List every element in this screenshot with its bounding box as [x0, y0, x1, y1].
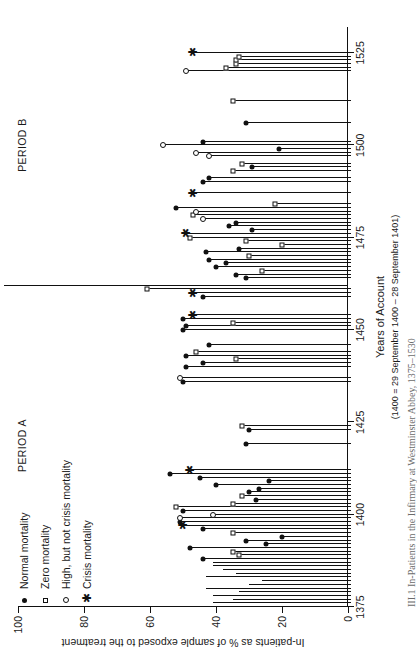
filled-circle-marker — [200, 527, 205, 532]
year-minor-tick — [348, 59, 351, 60]
year-minor-tick — [348, 244, 351, 245]
plot-area: 020406080100 137514001425145014751500152… — [18, 27, 348, 607]
bar — [203, 558, 348, 559]
year-minor-tick — [348, 491, 351, 492]
bar — [203, 528, 348, 529]
bar — [170, 473, 348, 474]
year-minor-tick — [348, 166, 351, 167]
bar — [206, 251, 348, 252]
year-minor-tick — [348, 362, 351, 363]
bar — [259, 488, 348, 489]
figure-caption: III.1 In-Patients in the Infirmary at We… — [406, 338, 417, 607]
year-minor-tick — [348, 521, 351, 522]
filled-circle-marker — [247, 490, 252, 495]
year-tick-label: 1450 — [354, 318, 366, 341]
value-tick-label: 100 — [12, 616, 24, 634]
bar — [233, 551, 349, 552]
open-square-marker — [230, 98, 235, 103]
open-square-marker — [230, 531, 235, 536]
filled-circle-marker — [204, 250, 209, 255]
open-square-marker — [230, 169, 235, 174]
bar — [249, 584, 348, 585]
filled-circle-marker — [237, 246, 242, 251]
year-minor-tick — [348, 248, 351, 249]
bar — [209, 177, 348, 178]
bar — [147, 288, 348, 289]
bar — [269, 480, 348, 481]
bar — [262, 270, 348, 271]
open-square-marker — [240, 494, 245, 499]
filled-circle-marker — [187, 545, 192, 550]
year-minor-tick — [348, 67, 351, 68]
open-circle-marker — [177, 375, 183, 381]
bar — [206, 588, 348, 589]
year-minor-tick — [348, 543, 351, 544]
year-minor-tick — [348, 222, 351, 223]
filled-circle-marker — [233, 272, 238, 277]
year-minor-tick — [348, 355, 351, 356]
year-tick-label: 1475 — [354, 226, 366, 249]
year-minor-tick — [348, 366, 351, 367]
year-minor-tick — [348, 218, 351, 219]
year-minor-tick — [348, 237, 351, 238]
year-minor-tick — [348, 429, 351, 430]
bar — [203, 181, 348, 182]
year-minor-tick — [348, 484, 351, 485]
bar — [236, 573, 348, 574]
filled-circle-marker — [200, 361, 205, 366]
bar — [266, 543, 349, 544]
bar — [233, 599, 349, 600]
open-square-marker — [230, 501, 235, 506]
year-minor-tick — [348, 580, 351, 581]
bar — [183, 510, 348, 511]
open-square-marker — [230, 549, 235, 554]
value-tick-label: 0 — [342, 616, 354, 622]
value-tick-label: 20 — [276, 616, 288, 628]
year-minor-tick — [348, 292, 351, 293]
bar — [183, 318, 348, 319]
year-minor-tick — [348, 233, 351, 234]
open-square-marker — [273, 202, 278, 207]
bar — [262, 580, 348, 581]
bar — [196, 152, 348, 153]
year-minor-tick — [348, 510, 351, 511]
open-square-marker — [240, 423, 245, 428]
year-minor-tick — [348, 469, 351, 470]
bar — [193, 192, 348, 193]
open-circle-marker — [193, 150, 199, 156]
year-minor-tick — [348, 240, 351, 241]
x-axis-subtitle: (1400 = 29 September 1400 – 28 September… — [390, 215, 400, 419]
filled-circle-marker — [181, 508, 186, 513]
filled-circle-marker — [243, 538, 248, 543]
bar — [200, 477, 349, 478]
filled-circle-marker — [253, 497, 258, 502]
open-square-marker — [247, 254, 252, 259]
bar — [196, 211, 348, 212]
filled-circle-marker — [243, 276, 248, 281]
open-circle-marker — [177, 515, 183, 521]
filled-circle-marker — [214, 483, 219, 488]
bar — [242, 425, 348, 426]
filled-circle-marker — [263, 542, 268, 547]
year-minor-tick — [348, 503, 351, 504]
bar — [180, 517, 348, 518]
bar — [190, 547, 348, 548]
year-minor-tick — [348, 547, 351, 548]
year-tick-label: 1425 — [354, 411, 366, 434]
bar — [209, 259, 348, 260]
bar — [239, 591, 348, 592]
bar — [233, 503, 349, 504]
asterisk-marker: ✱ — [188, 311, 197, 320]
year-minor-tick — [348, 56, 351, 57]
year-minor-tick — [348, 514, 351, 515]
bar — [246, 240, 348, 241]
year-minor-tick — [348, 573, 351, 574]
bar — [186, 70, 348, 71]
year-minor-tick — [348, 576, 351, 577]
year-minor-tick — [348, 318, 351, 319]
open-circle-marker — [160, 142, 166, 148]
filled-circle-marker — [266, 479, 271, 484]
bar — [236, 59, 348, 60]
bar — [163, 144, 348, 145]
year-minor-tick — [348, 229, 351, 230]
